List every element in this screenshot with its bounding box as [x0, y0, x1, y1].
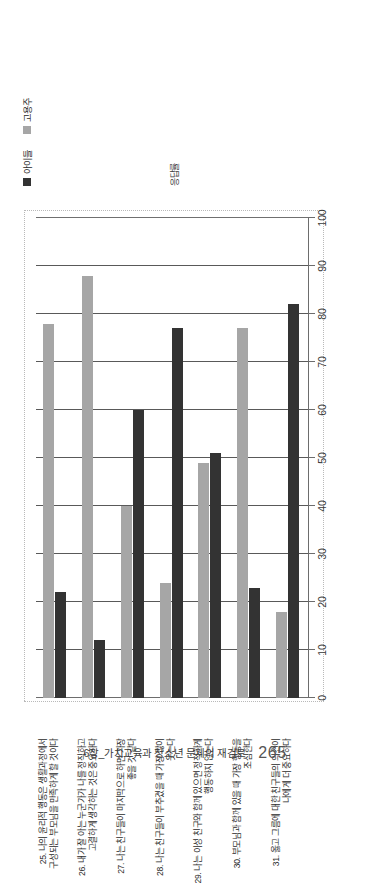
legend-label: 아이들 — [20, 150, 34, 174]
axis-tick-label: 100 — [316, 203, 328, 233]
bar — [160, 583, 171, 698]
axis-tick-label: 40 — [316, 491, 328, 521]
axis-tick-label: 80 — [316, 299, 328, 329]
bar — [172, 328, 183, 698]
legend-label: 고용주 — [20, 98, 34, 122]
axis-tick — [309, 361, 315, 362]
chart-legend: 아이들고용주 — [20, 98, 34, 186]
page-footer: 6장_가치교육과 청소년 문제의 재검토 265 — [0, 743, 370, 762]
axis-tick — [309, 409, 315, 410]
axis-tick — [309, 265, 315, 266]
bar — [237, 328, 248, 698]
gridline — [36, 217, 308, 218]
axis-tick-label: 30 — [316, 539, 328, 569]
legend-item: 고용주 — [20, 98, 34, 134]
axis-tick-label: 60 — [316, 395, 328, 425]
axis-tick-label: 70 — [316, 347, 328, 377]
axis-tick — [309, 697, 315, 698]
page-number: 265 — [258, 744, 286, 761]
axis-tick — [309, 601, 315, 602]
axis-tick — [309, 553, 315, 554]
value-axis-title: 응답률 — [168, 163, 181, 186]
axis-tick — [309, 649, 315, 650]
bar — [210, 453, 221, 698]
bar — [43, 324, 54, 698]
legend-swatch-icon — [23, 126, 31, 134]
bar — [55, 592, 66, 698]
axis-tick-label: 0 — [316, 683, 328, 713]
axis-tick — [309, 457, 315, 458]
gridline — [36, 265, 308, 266]
footer-chapter-title: 6장_가치교육과 청소년 문제의 재검토 — [83, 748, 245, 760]
bar-chart: 0102030405060708090100 25. 나의 윤리적 행동은 생활… — [0, 0, 370, 732]
axis-tick — [309, 505, 315, 506]
axis-tick-label: 10 — [316, 635, 328, 665]
bar — [94, 640, 105, 698]
bar — [133, 410, 144, 698]
legend-item: 아이들 — [20, 150, 34, 186]
bar — [198, 463, 209, 698]
bar — [276, 612, 287, 698]
rotated-figure-container: 0102030405060708090100 25. 나의 윤리적 행동은 생활… — [0, 0, 370, 732]
gridline — [36, 313, 308, 314]
bar — [288, 304, 299, 698]
bar — [121, 506, 132, 698]
axis-tick — [309, 217, 315, 218]
axis-tick-label: 90 — [316, 251, 328, 281]
axis-tick-label: 50 — [316, 443, 328, 473]
bar — [249, 588, 260, 698]
legend-swatch-icon — [23, 178, 31, 186]
axis-tick — [309, 313, 315, 314]
bar — [82, 276, 93, 698]
axis-tick-label: 20 — [316, 587, 328, 617]
